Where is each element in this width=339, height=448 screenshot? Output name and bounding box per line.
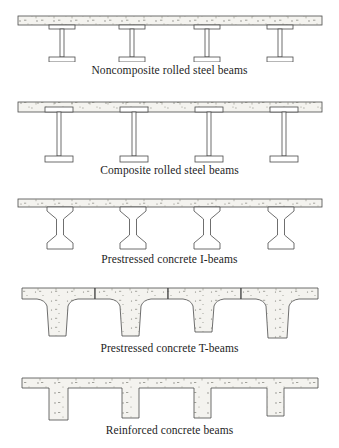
reinforced-concrete-diagram: [0, 370, 339, 426]
panel-noncomposite-rolled-steel: Noncomposite rolled steel beams: [0, 0, 339, 90]
prestressed-i-girder: [194, 207, 220, 249]
prestressed-concrete-t-diagram: [0, 280, 339, 346]
panel-prestressed-concrete-t: Prestressed concrete T-beams: [0, 280, 339, 370]
prestressed-i-girder-group: [47, 207, 294, 249]
panel-caption: Prestressed concrete T-beams: [0, 342, 339, 354]
prestressed-concrete-i-diagram: [0, 185, 339, 255]
prestressed-i-girder: [47, 207, 73, 249]
precast-t-girder-group: [22, 288, 318, 338]
noncomposite-rolled-steel-diagram: [0, 0, 339, 62]
panel-composite-rolled-steel: Composite rolled steel beams: [0, 90, 339, 185]
panel-caption: Prestressed concrete I-beams: [0, 253, 339, 265]
deck-slab: [18, 199, 322, 207]
panel-caption: Reinforced concrete beams: [0, 424, 339, 436]
prestressed-i-girder: [268, 207, 294, 249]
deck-slab: [18, 16, 322, 25]
steel-i-beam: [49, 25, 75, 62]
rc-beam-group: [22, 378, 318, 420]
panel-caption: Noncomposite rolled steel beams: [0, 64, 339, 76]
steel-i-beam-embedded: [45, 107, 73, 162]
steel-i-beam-embedded: [120, 107, 148, 162]
bridge-cross-section-figure: Noncomposite rolled steel beams: [0, 0, 339, 448]
steel-i-beam: [267, 25, 293, 62]
composite-rolled-steel-diagram: [0, 90, 339, 166]
steel-girder-group: [49, 25, 293, 62]
steel-i-beam: [119, 25, 145, 62]
panel-caption: Composite rolled steel beams: [0, 164, 339, 176]
steel-i-beam: [194, 25, 220, 62]
prestressed-i-girder: [120, 207, 146, 249]
panel-prestressed-concrete-i: Prestressed concrete I-beams: [0, 185, 339, 280]
composite-girder-group: [45, 107, 298, 162]
panel-reinforced-concrete: Reinforced concrete beams: [0, 370, 339, 448]
steel-i-beam-embedded: [270, 107, 298, 162]
steel-i-beam-embedded: [195, 107, 223, 162]
